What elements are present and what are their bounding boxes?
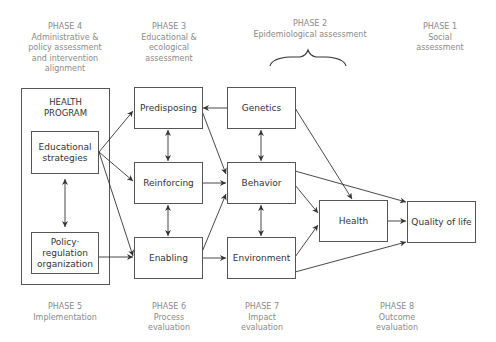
brace-icon: [270, 50, 346, 66]
behavior-box: Behavior: [227, 162, 296, 204]
quality-of-life-box: Quality of life: [407, 201, 476, 243]
box-label: Environment: [233, 253, 290, 264]
reinforcing-box: Reinforcing: [134, 162, 203, 204]
box-label: Genetics: [242, 103, 281, 114]
box-label: Behavior: [242, 178, 282, 189]
health-box: Health: [319, 200, 388, 242]
box-label: Quality of life: [411, 217, 471, 228]
predisposing-box: Predisposing: [134, 87, 203, 129]
box-label: Health: [339, 216, 369, 227]
box-label: Reinforcing: [143, 178, 194, 189]
enabling-box: Enabling: [134, 237, 203, 279]
box-label: Predisposing: [140, 103, 197, 114]
genetics-box: Genetics: [227, 87, 296, 129]
environment-box: Environment: [227, 237, 296, 279]
box-label: Enabling: [149, 253, 188, 264]
